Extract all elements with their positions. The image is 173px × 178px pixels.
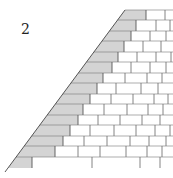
- sloped-edge-line: [5, 10, 125, 172]
- hatched-wedge-fill: [8, 10, 146, 168]
- brick-wall-diagram: [0, 0, 173, 178]
